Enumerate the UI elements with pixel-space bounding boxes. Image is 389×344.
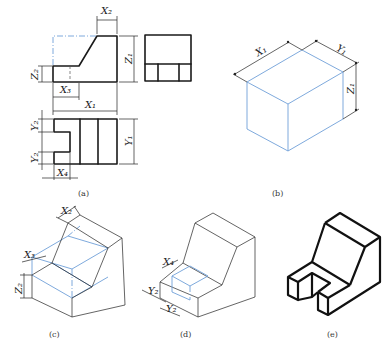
caption-c: (c)	[49, 330, 60, 339]
caption-a: (a)	[78, 189, 89, 198]
slot-top	[172, 266, 208, 286]
dim-label-x2: X₂	[100, 5, 112, 16]
panel-d-slot-cut: X₄ Y₂ Y₂	[142, 213, 255, 317]
dim-label-z2: Z₂	[29, 69, 40, 81]
dim-label-y1: Y₁	[123, 135, 134, 146]
dim-label-z1: Z₁	[345, 83, 356, 95]
top-view-outline	[54, 119, 117, 164]
dim-label-x2: X₂	[60, 205, 72, 216]
dim-label-x3: X₃	[23, 249, 35, 260]
panel-a-front-view: X₂ Z₁ Z₂ X₃ X₁	[29, 5, 138, 115]
front-view-construction-line	[53, 36, 97, 65]
caption-d: (d)	[180, 330, 191, 339]
panel-a-top-view: Y₁ Y₂ Y₂ X₄	[29, 110, 138, 180]
dim-label-x4: X₄	[56, 167, 68, 178]
dim-label-y2-bottom: Y₂	[29, 152, 40, 163]
dim-label-y2-a: Y₂	[148, 285, 159, 296]
dim-label-x1: X₁	[84, 99, 96, 110]
dim-label-y2-b: Y₂	[166, 303, 177, 314]
panel-e-final-part	[288, 213, 380, 315]
caption-e: (e)	[327, 330, 338, 339]
dim-label-x3: X₃	[59, 84, 71, 95]
dim-label-z2: Z₂	[13, 283, 24, 295]
side-view-outline	[145, 35, 191, 81]
panel-c-step-cut: X₂ X₃ Z₂	[13, 205, 125, 317]
front-view-outline	[53, 36, 117, 82]
panel-b-bounding-box: X₁ Y₁ Z₁	[233, 40, 359, 151]
dim-label-z1: Z₁	[123, 53, 134, 65]
caption-b: (b)	[272, 189, 283, 198]
panel-a-side-view	[145, 35, 191, 81]
dim-label-y1: Y₁	[334, 42, 349, 57]
technical-drawing: X₂ Z₁ Z₂ X₃ X₁ Y₁ Y₂ Y₂	[0, 0, 389, 344]
dim-label-y2-top: Y₂	[29, 120, 40, 131]
dim-label-x4: X₄	[162, 256, 174, 267]
dim-label-x1: X₁	[252, 43, 268, 59]
